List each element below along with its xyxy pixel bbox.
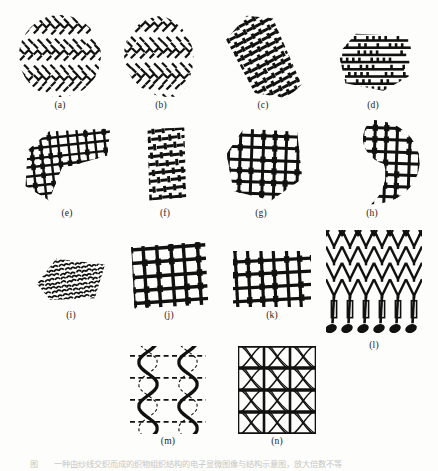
panel-d: [330, 30, 416, 92]
weave-image-h: [322, 118, 422, 206]
weave-image-e: [22, 122, 112, 202]
panel-f: [142, 126, 188, 202]
weave-image-f: [142, 126, 188, 202]
panel-j: [128, 240, 210, 310]
panel-n: [238, 346, 316, 434]
panel-h: [322, 118, 422, 206]
weave-image-j: [128, 240, 210, 310]
panel-g: [218, 124, 304, 202]
panel-label-h: (h): [322, 208, 422, 218]
panel-label-k: (k): [232, 310, 312, 320]
weave-image-n: [238, 346, 316, 434]
weave-image-c: [222, 14, 304, 100]
panel-a: [18, 14, 102, 98]
panel-label-g: (g): [218, 208, 304, 218]
panel-label-f: (f): [142, 208, 188, 218]
panel-label-i: (i): [34, 310, 108, 320]
panel-label-c: (c): [222, 100, 304, 110]
panel-e: [22, 122, 112, 202]
weave-image-b: [120, 14, 202, 100]
panel-label-a: (a): [18, 100, 102, 110]
panel-l: [326, 230, 422, 336]
panel-label-e: (e): [22, 208, 112, 218]
weave-image-i: [34, 254, 108, 302]
panel-label-n: (n): [238, 436, 316, 446]
weave-image-m: [128, 346, 208, 434]
figure-caption: 图一种由纱线交织而成的织物组织结构的电子显微图像与结构示意图，放大倍数不等: [30, 459, 426, 471]
weave-image-g: [218, 124, 304, 202]
caption-text: 一种由纱线交织而成的织物组织结构的电子显微图像与结构示意图，放大倍数不等: [54, 460, 342, 469]
panel-label-j: (j): [128, 310, 210, 320]
panel-label-m: (m): [128, 436, 208, 446]
panel-label-l: (l): [326, 340, 422, 350]
weave-image-k: [232, 250, 312, 308]
panel-label-d: (d): [330, 100, 416, 110]
panel-c: [222, 14, 304, 100]
panel-i: [34, 254, 108, 302]
panel-label-b: (b): [120, 100, 202, 110]
weave-image-d: [330, 30, 416, 92]
figure-plate: (a) (b) (c) (d) (e) (f) (g) (h) (i) (j) …: [0, 0, 438, 471]
weave-image-a: [18, 14, 102, 98]
caption-number: 图: [30, 460, 38, 469]
panel-b: [120, 14, 202, 100]
panel-m: [128, 346, 208, 434]
weave-image-l: [326, 230, 422, 336]
panel-k: [232, 250, 312, 308]
